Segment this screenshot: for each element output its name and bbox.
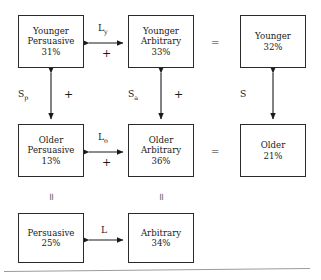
box-line-2: Persuasive bbox=[28, 145, 75, 155]
box-older-arbitrary[interactable]: Older Arbitrary 36% bbox=[128, 124, 194, 177]
box-value: 33% bbox=[151, 47, 170, 57]
box-line-1: Younger bbox=[255, 31, 291, 41]
box-line-2: Arbitrary bbox=[141, 145, 181, 155]
arrow-label-l: L bbox=[101, 224, 107, 238]
box-younger-total[interactable]: Younger 32% bbox=[240, 15, 306, 68]
arrow-label-sub: y bbox=[104, 28, 108, 36]
box-line-1: Arbitrary bbox=[141, 228, 181, 238]
box-line-1: Younger bbox=[33, 26, 69, 36]
box-value: 34% bbox=[151, 238, 170, 248]
box-line-1: Younger bbox=[143, 26, 179, 36]
box-value: 36% bbox=[151, 156, 170, 166]
box-older-total[interactable]: Older 21% bbox=[240, 124, 306, 177]
sign-sp: + bbox=[64, 89, 73, 100]
box-arbitrary-total[interactable]: Arbitrary 34% bbox=[128, 213, 194, 263]
sign-sa: + bbox=[174, 89, 183, 100]
box-older-persuasive[interactable]: Older Persuasive 13% bbox=[18, 124, 84, 177]
box-value: 13% bbox=[41, 156, 60, 166]
equals-arbitrary-column: = bbox=[156, 193, 166, 201]
arrow-label-sub: o bbox=[104, 137, 108, 145]
equals-younger-row: = bbox=[211, 38, 219, 48]
box-line-1: Older bbox=[149, 135, 174, 145]
box-persuasive-total[interactable]: Persuasive 25% bbox=[18, 213, 84, 263]
arrow-label-base: L bbox=[101, 224, 107, 235]
box-younger-persuasive[interactable]: Younger Persuasive 31% bbox=[18, 15, 84, 68]
arrow-label-sp: Sp bbox=[18, 88, 28, 102]
box-line-1: Persuasive bbox=[28, 228, 75, 238]
equals-persuasive-column: = bbox=[46, 193, 56, 201]
sign-lo: + bbox=[102, 157, 111, 168]
box-line-1: Older bbox=[39, 135, 64, 145]
arrow-label-lo: Lo bbox=[98, 131, 108, 145]
arrow-label-sa: Sa bbox=[128, 88, 138, 102]
path-diagram: Younger Persuasive 31% Younger Arbitrary… bbox=[0, 0, 321, 280]
arrow-label-sub: a bbox=[134, 94, 138, 102]
arrow-label-base: S bbox=[240, 88, 246, 99]
arrow-label-s: S bbox=[240, 88, 246, 102]
sign-ly: + bbox=[102, 48, 111, 59]
box-value: 31% bbox=[41, 47, 60, 57]
equals-older-row: = bbox=[211, 147, 219, 157]
box-line-2: Persuasive bbox=[28, 36, 75, 46]
box-younger-arbitrary[interactable]: Younger Arbitrary 33% bbox=[128, 15, 194, 68]
box-line-1: Older bbox=[261, 140, 286, 150]
box-value: 32% bbox=[263, 42, 282, 52]
arrow-label-sub: p bbox=[24, 94, 28, 102]
arrow-label-ly: Ly bbox=[98, 22, 108, 36]
box-line-2: Arbitrary bbox=[141, 36, 181, 46]
box-value: 25% bbox=[41, 238, 60, 248]
box-value: 21% bbox=[263, 151, 282, 161]
